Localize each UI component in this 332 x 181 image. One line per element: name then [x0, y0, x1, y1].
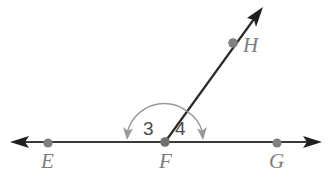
angle-label-3: 3: [143, 118, 154, 139]
point-label-g: G: [269, 149, 284, 173]
point-dot-e: [43, 138, 52, 147]
point-dot-h: [228, 38, 238, 48]
point-label-e: E: [40, 149, 54, 173]
point-dot-f: [160, 137, 170, 147]
angle-4-arc-path: [187, 111, 202, 131]
angle-4-arc: [187, 111, 207, 140]
point-label-h: H: [242, 33, 260, 57]
geometry-diagram: E F G H 3 4: [0, 0, 332, 181]
geometry-canvas: E F G H 3 4: [0, 0, 332, 181]
point-dot-g: [272, 138, 281, 147]
angle-label-4: 4: [175, 118, 186, 139]
point-label-f: F: [158, 149, 172, 173]
